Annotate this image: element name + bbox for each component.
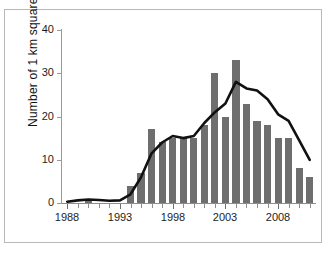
bar-2001 (201, 125, 208, 203)
bar-1997 (159, 142, 166, 203)
x-tick-2010 (299, 204, 300, 208)
x-tick-2011 (310, 204, 311, 208)
y-tick-label-10: 10 (20, 154, 54, 165)
y-axis-tick-labels: 010203040 (18, 0, 54, 256)
x-tick-2007 (268, 204, 269, 208)
y-tick-label-40: 40 (20, 24, 54, 35)
bar-2000 (190, 138, 197, 203)
bar-2007 (264, 125, 271, 203)
x-tick-1999 (183, 204, 184, 208)
y-tick-label-30: 30 (20, 67, 54, 78)
x-tick-1988 (67, 204, 68, 209)
bar-1994 (127, 186, 134, 203)
chart-page: Number of 1 km squares 010203040 1988199… (0, 0, 328, 256)
y-tick-0 (57, 203, 62, 204)
x-tick-label-1993: 1993 (108, 211, 132, 223)
bar-1995 (137, 173, 144, 203)
bar-1998 (169, 138, 176, 203)
bar-1999 (180, 138, 187, 203)
bar-1996 (148, 129, 155, 203)
bar-2009 (285, 138, 292, 203)
x-tick-1990 (88, 204, 89, 208)
x-tick-2003 (225, 204, 226, 209)
x-tick-label-1988: 1988 (55, 211, 79, 223)
x-tick-label-2008: 2008 (266, 211, 290, 223)
bar-2002 (211, 73, 218, 203)
bar-2005 (243, 104, 250, 203)
x-tick-1989 (78, 204, 79, 208)
x-tick-2005 (246, 204, 247, 208)
y-tick-label-20: 20 (20, 111, 54, 122)
bar-2006 (253, 121, 260, 203)
x-tick-1996 (152, 204, 153, 208)
bar-2004 (232, 60, 239, 203)
bar-1990 (85, 199, 92, 203)
bar-2011 (306, 177, 313, 203)
x-tick-1991 (99, 204, 100, 208)
x-tick-1998 (173, 204, 174, 209)
bar-2008 (275, 138, 282, 203)
bar-series (62, 30, 315, 203)
x-tick-label-1998: 1998 (161, 211, 185, 223)
y-tick-label-0: 0 (20, 197, 54, 208)
x-tick-1997 (162, 204, 163, 208)
x-tick-2001 (204, 204, 205, 208)
x-tick-2000 (194, 204, 195, 208)
bar-2003 (222, 117, 229, 204)
plot-area (62, 30, 315, 203)
x-tick-label-2003: 2003 (213, 211, 237, 223)
x-tick-2004 (236, 204, 237, 208)
x-tick-1993 (120, 204, 121, 209)
x-tick-2002 (215, 204, 216, 208)
x-tick-1992 (109, 204, 110, 208)
x-tick-1995 (141, 204, 142, 208)
x-tick-2009 (289, 204, 290, 208)
x-tick-2006 (257, 204, 258, 208)
bar-2010 (296, 168, 303, 203)
x-tick-2008 (278, 204, 279, 209)
x-tick-1994 (131, 204, 132, 208)
